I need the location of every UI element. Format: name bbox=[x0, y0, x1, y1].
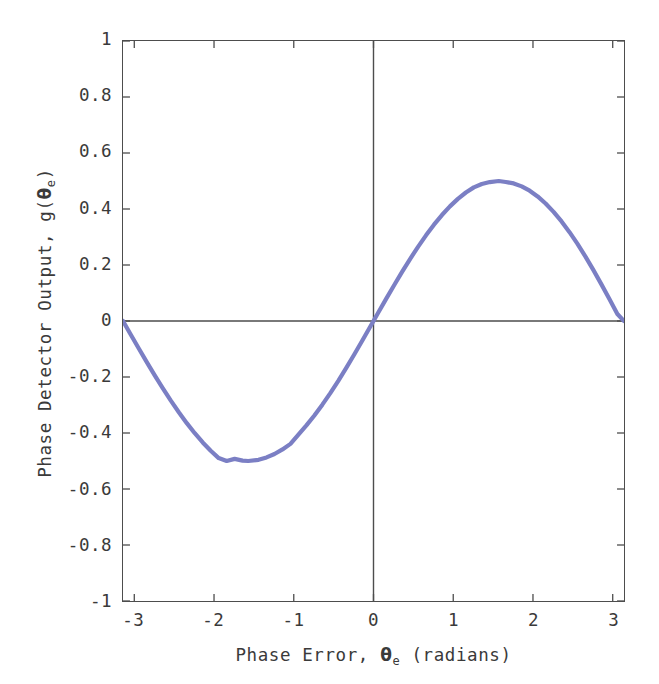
x-tick-label: 2 bbox=[504, 612, 564, 630]
x-axis-tick-labels: -3-2-10123 bbox=[0, 612, 659, 636]
plot-area bbox=[122, 40, 625, 602]
y-axis-label: Phase Detector Output, g(θe) bbox=[34, 42, 62, 604]
y-axis-label-wrapper: Phase Detector Output, g(θe) bbox=[34, 42, 58, 604]
x-tick-label: 0 bbox=[344, 612, 404, 630]
chart-figure: 10.80.60.40.20-0.2-0.4-0.6-0.8-1 -3-2-10… bbox=[0, 0, 659, 684]
x-tick-label: 3 bbox=[584, 612, 644, 630]
theta-symbol: θ bbox=[380, 645, 392, 665]
x-tick-label: -2 bbox=[183, 612, 243, 630]
x-axis-label: Phase Error, θe (radians) bbox=[122, 645, 625, 671]
x-tick-label: 1 bbox=[424, 612, 484, 630]
theta-symbol: θ bbox=[35, 187, 55, 199]
plot-canvas bbox=[123, 41, 624, 601]
x-tick-label: -3 bbox=[103, 612, 163, 630]
x-tick-label: -1 bbox=[263, 612, 323, 630]
theta-subscript: e bbox=[44, 179, 58, 187]
theta-subscript: e bbox=[392, 654, 400, 668]
